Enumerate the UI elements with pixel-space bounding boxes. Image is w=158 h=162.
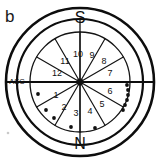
house-number-7: 7 [107,68,112,78]
house-number-9: 9 [89,50,94,60]
marker-dot [36,92,40,96]
house-number-8: 8 [101,56,106,66]
wheel-center-hub [77,79,84,86]
house-number-5: 5 [99,99,104,109]
marker-dot [44,108,48,112]
house-number-1: 1 [53,90,58,100]
marker-dot [123,103,127,107]
panel-label: b [5,7,14,26]
house-number-2: 2 [61,102,66,112]
house-number-10: 10 [73,49,83,59]
house-number-11: 11 [60,56,69,66]
marker-dot [52,116,56,120]
marker-dot [125,98,129,102]
house-number-6: 6 [107,86,112,96]
ascendant-label: ASC [9,77,25,86]
marker-dot [126,93,130,97]
marker-dot [121,108,125,112]
cardinal-label-north: N [74,135,86,152]
house-number-12: 12 [52,68,62,78]
scan-speck [7,132,10,135]
astrological-house-wheel: 1 2 3 4 5 6 7 8 9 10 11 12 [0,0,158,162]
house-number-4: 4 [87,106,92,116]
cardinal-label-south: S [75,9,86,26]
marker-dot [125,83,129,87]
marker-dot [93,126,97,130]
marker-dot [69,125,73,129]
marker-dot [126,88,130,92]
house-number-3: 3 [73,108,78,118]
figure-panel: 1 2 3 4 5 6 7 8 9 10 11 12 [0,0,158,162]
